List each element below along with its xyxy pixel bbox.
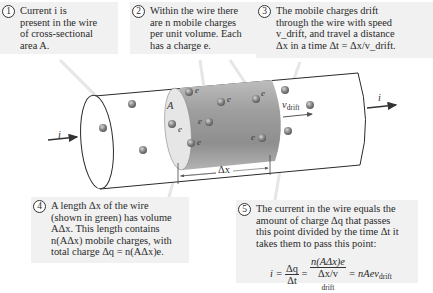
callout-text: AΔx. This length contains xyxy=(51,223,183,235)
current-arrow-right xyxy=(367,105,396,108)
callout-text: A length Δx of the wire xyxy=(51,200,183,212)
current-label-right: i xyxy=(378,92,381,103)
charge-label: e xyxy=(197,137,201,147)
callout-text: takes them to pass this point: xyxy=(256,238,412,250)
step-number-3: 3 xyxy=(258,5,271,18)
callout-text: area A. xyxy=(20,40,112,52)
area-label: A xyxy=(167,100,173,111)
callout-text: of cross-sectional xyxy=(20,28,112,40)
callout-text: Current i is xyxy=(20,5,112,17)
charge-label: e xyxy=(251,132,255,142)
drift-arrow xyxy=(283,114,312,117)
callout-2: 2 Within the wire there are n mobile cha… xyxy=(130,2,256,54)
callout-text: The current in the wire equals the xyxy=(256,203,412,215)
callout-3: 3 The mobile charges drift through the w… xyxy=(256,2,433,58)
callout-text: has a charge e. xyxy=(150,40,250,52)
callout-text: Within the wire there xyxy=(150,5,250,17)
equation-rhs: = nAev xyxy=(349,268,379,279)
step-number-2: 2 xyxy=(132,5,145,18)
fraction-charge-time: n(AΔx)e Δx/vdrift xyxy=(310,256,346,293)
delta-x-label: Δx xyxy=(218,164,230,175)
callout-4: 4 A length Δx of the wire (shown in gree… xyxy=(31,197,189,263)
callout-1: 1 Current i is present in the wire of cr… xyxy=(0,2,118,54)
callout-text: amount of charge Δq that passes xyxy=(256,215,412,227)
drift-velocity-label: vdrift xyxy=(282,99,300,112)
charge-label: e xyxy=(178,124,182,134)
current-equation: i = Δq Δt = n(AΔx)e Δx/vdrift = nAevdrif… xyxy=(270,256,392,293)
callout-text: v_drift, and travel a distance xyxy=(276,28,427,40)
current-label-left: i xyxy=(58,129,61,140)
callout-text: present in the wire xyxy=(20,17,112,29)
callout-text: this point divided by the time Δt it xyxy=(256,226,412,238)
callout-text: through the wire with speed xyxy=(276,17,427,29)
charges xyxy=(99,86,314,154)
step-number-5: 5 xyxy=(238,203,251,216)
callout-text: n(AΔx) mobile charges, with xyxy=(51,235,183,247)
wire-body xyxy=(95,73,366,189)
current-arrow-left xyxy=(48,137,77,140)
callout-text: (shown in green) has volume xyxy=(51,212,183,224)
equals-sign: = xyxy=(302,268,308,279)
callout-text: The mobile charges drift xyxy=(276,5,427,17)
charge-label: e xyxy=(227,94,231,104)
step-number-4: 4 xyxy=(33,200,46,213)
fraction-dq-dt: Δq Δt xyxy=(285,263,299,286)
callout-text: are n mobile charges xyxy=(150,17,250,29)
equation-lhs: i = xyxy=(270,268,283,279)
callout-text: Δx in a time Δt = Δx/v_drift. xyxy=(276,40,427,52)
callout-text: total charge Δq = n(AΔx)e. xyxy=(51,246,183,258)
wire-end-left xyxy=(77,94,117,190)
charge-label: e xyxy=(195,85,199,95)
callout-text: per unit volume. Each xyxy=(150,28,250,40)
step-number-1: 1 xyxy=(2,5,15,18)
charge-label: e xyxy=(261,88,265,98)
charge-label: e xyxy=(198,116,202,126)
